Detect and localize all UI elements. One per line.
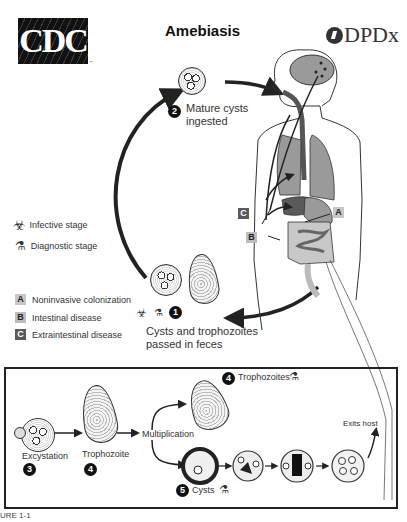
figure-caption: URE 1-1 xyxy=(0,511,31,520)
legend-item-b: B Intestinal disease xyxy=(15,312,102,323)
lung-right xyxy=(310,135,334,200)
step-5-badge: 5 xyxy=(176,484,189,497)
legend-item-c: C Extraintestinal disease xyxy=(15,329,122,340)
brain xyxy=(290,55,334,85)
step-2-label: Mature cysts ingested xyxy=(186,102,248,128)
legend-label-b: Intestinal disease xyxy=(32,313,102,323)
legend-key-c: C xyxy=(15,329,26,340)
trophozoite-label: Trophozoite xyxy=(82,449,129,459)
legend-label-c: Extraintestinal disease xyxy=(32,330,122,340)
step-4b-badge: 4 xyxy=(222,372,235,385)
step-4-badge: 4 xyxy=(84,463,97,476)
body-label-c: C xyxy=(238,208,249,219)
excretion-arrow xyxy=(230,287,318,318)
legend-diagnostic: ⚗ Diagnostic stage xyxy=(15,240,97,252)
cycle-arrow-up xyxy=(116,92,178,278)
legend-label-a: Noninvasive colonization xyxy=(32,295,131,305)
body-label-b: B xyxy=(246,232,257,243)
step-1-label: Cysts and trophozoites passed in feces xyxy=(146,325,258,351)
legend-diagnostic-label: Diagnostic stage xyxy=(31,241,98,251)
excystation-label: Excystation xyxy=(22,451,68,461)
microscope-icon: ⚗ xyxy=(219,484,229,496)
microscope-icon: ⚗ xyxy=(289,371,299,383)
body-label-a: A xyxy=(333,207,344,218)
legend-key-a: A xyxy=(15,294,26,305)
ingestion-arrow xyxy=(225,82,278,92)
human-body xyxy=(254,50,362,330)
legend-item-a: A Noninvasive colonization xyxy=(15,294,131,305)
legend-infective-label: Infective stage xyxy=(30,220,88,230)
multiplication-label: Multiplication xyxy=(142,429,194,439)
exits-host-label: Exits host xyxy=(343,419,378,428)
rectum xyxy=(308,264,318,296)
trophozoites-label: Trophozoites xyxy=(238,372,290,382)
biohazard-icon: ☣ xyxy=(13,219,26,231)
cysts-label: Cysts xyxy=(192,485,215,495)
step-3-badge: 3 xyxy=(23,463,36,476)
step-2-badge: 2 xyxy=(168,105,181,118)
microscope-icon: ⚗ xyxy=(15,240,26,252)
emerging-amoeba xyxy=(14,427,26,439)
legend-key-b: B xyxy=(15,312,26,323)
microscope-icon: ⚗ xyxy=(154,307,163,319)
step-1-badge: 1 xyxy=(169,306,182,319)
biohazard-icon: ☣ xyxy=(136,307,147,319)
legend-infective: ☣ Infective stage xyxy=(13,219,88,231)
excystation-cyst xyxy=(21,418,55,452)
mature-cyst-ingested xyxy=(178,67,206,95)
cyst-in-feces xyxy=(150,264,182,296)
